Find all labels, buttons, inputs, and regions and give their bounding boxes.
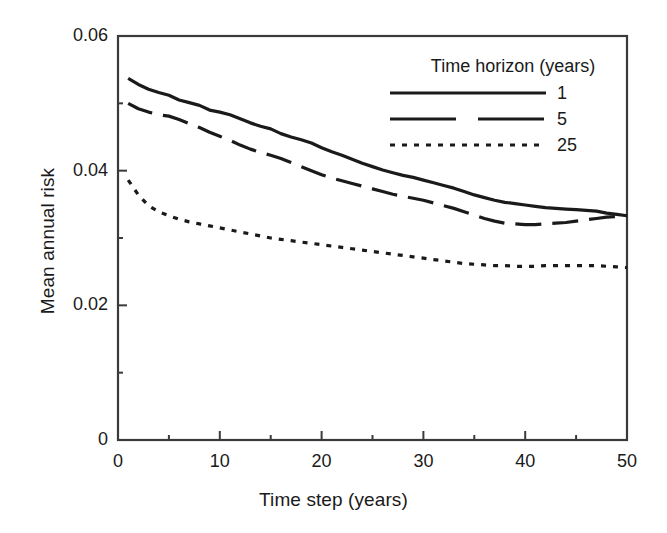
series-line-25 [128,180,627,268]
x-axis-title: Time step (years) [0,489,667,511]
chart-legend: Time horizon (years) 1525 [388,56,638,158]
x-tick-label: 20 [292,451,352,472]
legend-entries: 1525 [388,80,638,158]
legend-item-5: 5 [388,106,638,132]
legend-label-1: 1 [557,84,567,102]
y-tick-label: 0.04 [38,160,108,181]
x-tick-label: 30 [393,451,453,472]
legend-label-5: 5 [557,110,567,128]
y-axis-title: Mean annual risk [37,91,59,391]
legend-swatch-dotted [388,138,548,152]
x-tick-label: 10 [190,451,250,472]
y-tick-label: 0.06 [38,25,108,46]
legend-item-1: 1 [388,80,638,106]
chart-figure: Mean annual risk Time step (years) 00.02… [0,0,667,533]
y-tick-label: 0.02 [38,294,108,315]
legend-item-25: 25 [388,132,638,158]
x-tick-label: 40 [495,451,555,472]
legend-swatch-dashed [388,112,548,126]
x-tick-label: 50 [597,451,657,472]
legend-swatch-solid [388,86,548,100]
y-tick-label: 0 [38,429,108,450]
legend-title: Time horizon (years) [388,56,638,77]
x-tick-label: 0 [88,451,148,472]
legend-label-25: 25 [557,136,577,154]
